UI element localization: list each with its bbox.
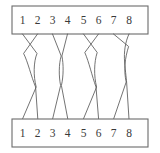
bottom-terminal-label-1: 1 — [20, 127, 26, 139]
bottom-terminal-label-3: 3 — [50, 127, 56, 139]
top-terminal-label-6: 6 — [96, 14, 102, 26]
top-terminal-label-5: 5 — [81, 14, 87, 26]
bottom-terminal-label-8: 8 — [126, 127, 132, 139]
bottom-terminal-label-4: 4 — [65, 127, 71, 139]
strand-group — [23, 34, 130, 119]
braid-diagram-canvas: 1 2 3 4 5 6 7 8 1 — [0, 0, 160, 153]
bottom-terminal-box-group: 1 2 3 4 5 6 7 8 — [12, 119, 148, 147]
top-terminal-label-2: 2 — [35, 14, 41, 26]
strand-4 — [61, 34, 67, 119]
braid-diagram-figure: 1 2 3 4 5 6 7 8 1 — [0, 0, 160, 153]
strand-1 — [23, 34, 38, 119]
bottom-terminal-label-5: 5 — [81, 127, 87, 139]
top-terminal-box-group: 1 2 3 4 5 6 7 8 — [12, 6, 148, 34]
top-terminal-label-1: 1 — [20, 14, 26, 26]
bottom-terminal-label-2: 2 — [35, 127, 41, 139]
top-terminal-label-8: 8 — [126, 14, 132, 26]
top-terminal-label-4: 4 — [65, 14, 71, 26]
strand-5 — [83, 34, 97, 119]
bottom-terminal-label-6: 6 — [96, 127, 102, 139]
top-terminal-label-7: 7 — [111, 14, 117, 26]
strand-6 — [85, 34, 99, 119]
strand-3 — [53, 34, 62, 119]
top-terminal-label-3: 3 — [50, 14, 56, 26]
strand-2 — [24, 34, 38, 119]
bottom-terminal-label-7: 7 — [111, 127, 117, 139]
